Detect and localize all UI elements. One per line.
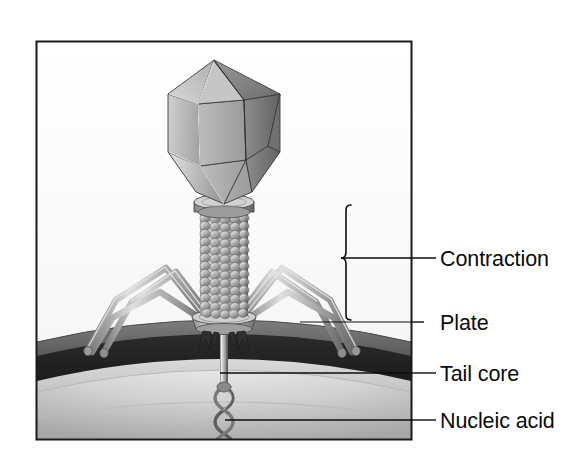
sheath-bead <box>220 223 230 232</box>
label-plate: Plate <box>440 311 489 335</box>
sheath-bead <box>229 310 239 318</box>
sheath-bead <box>230 231 240 240</box>
sheath-bead <box>210 295 220 304</box>
sheath-bead <box>230 271 240 280</box>
sheath-bead <box>210 255 220 264</box>
sheath-bead <box>230 239 240 248</box>
sheath-bead <box>210 231 220 240</box>
sheath-bead <box>210 247 220 256</box>
sheath-bead <box>210 239 220 248</box>
illustration-area <box>37 42 411 445</box>
label-nucleic-acid: Nucleic acid <box>440 409 555 433</box>
sheath-right-shadow <box>245 212 248 316</box>
sheath-bead <box>220 287 230 296</box>
sheath-bead <box>220 310 230 318</box>
sheath-bead <box>210 287 220 296</box>
dna-emergence-knob <box>217 382 231 392</box>
sheath-bead <box>220 263 230 272</box>
fiber-foot-left-1 <box>84 346 92 355</box>
sheath-left-highlight <box>200 212 203 316</box>
sheath-bead <box>230 279 240 288</box>
collar-bottom-disc <box>198 206 250 218</box>
sheath-bead <box>210 223 220 232</box>
sheath-bead <box>230 223 240 232</box>
sheath-bead <box>220 239 230 248</box>
sheath-bead <box>220 231 230 240</box>
sheath-bead <box>210 279 220 288</box>
sheath-bead <box>220 271 230 280</box>
capsid-facet-mc <box>198 100 246 166</box>
fiber-foot-left-2 <box>100 348 108 357</box>
sheath-bead <box>220 255 230 264</box>
bacteriophage-diagram: Contraction Plate Tail core Nucleic acid <box>0 0 588 470</box>
fiber-foot-right-1 <box>352 346 360 355</box>
sheath-bead <box>230 295 240 304</box>
sheath-bead <box>211 310 221 318</box>
sheath-bead <box>210 271 220 280</box>
sheath-bead <box>230 255 240 264</box>
sheath-bead <box>220 279 230 288</box>
sheath-bead <box>202 309 212 317</box>
fiber-foot-right-2 <box>338 348 346 357</box>
sheath-bead <box>210 263 220 272</box>
tail-sheath-beads <box>200 214 249 319</box>
sheath-bead <box>220 295 230 304</box>
sheath-bead <box>230 247 240 256</box>
figure-canvas: Contraction Plate Tail core Nucleic acid <box>0 0 588 470</box>
label-contraction: Contraction <box>440 247 549 271</box>
sheath-bead <box>230 263 240 272</box>
sheath-bead <box>220 247 230 256</box>
label-tail-core: Tail core <box>440 362 519 386</box>
tail-sheath <box>200 212 249 319</box>
sheath-bead <box>230 287 240 296</box>
